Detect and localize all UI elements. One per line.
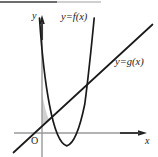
curve-f-parabola: [40, 18, 95, 146]
y-axis-label: y: [32, 11, 36, 21]
graph-canvas: [0, 0, 158, 157]
x-axis-label: x: [145, 136, 149, 146]
origin-label: O: [31, 136, 38, 146]
curve-g-label: y=g(x): [115, 57, 144, 68]
math-figure: y=f(x) y=g(x) y x O: [0, 0, 158, 157]
curve-f-label: y=f(x): [61, 12, 87, 23]
